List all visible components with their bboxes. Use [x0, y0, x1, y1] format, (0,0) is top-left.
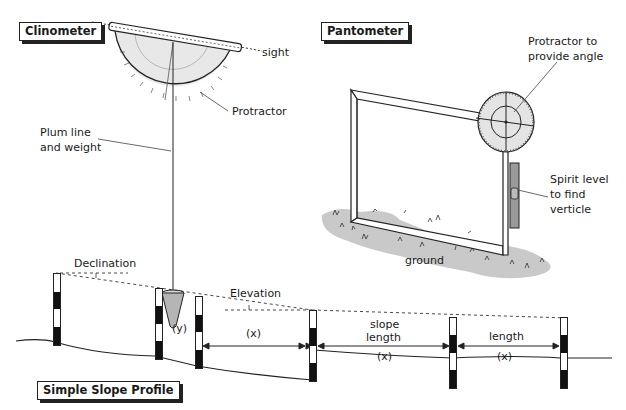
protractor-label: Protractor — [232, 105, 287, 118]
spirit-level-label-2: to find — [550, 188, 585, 201]
plum-line-label-2: and weight — [40, 141, 101, 154]
plum-line-label-1: Plum line — [40, 126, 91, 139]
protractor-angle-label-2: provide angle — [528, 50, 603, 63]
diagram-canvas: Clinometer Pantometer Simple Slope Profi… — [0, 0, 626, 410]
elevation-label: Elevation — [230, 287, 281, 300]
ranging-pole-1 — [53, 273, 61, 346]
slope-profile-title: Simple Slope Profile — [37, 381, 180, 400]
length-label: length — [489, 330, 524, 343]
declination-label: Declination — [74, 257, 136, 270]
clinometer-title: Clinometer — [19, 22, 102, 41]
y-label: (y) — [172, 322, 187, 335]
ranging-pole-6 — [560, 317, 568, 389]
slope-length-label-2: length — [366, 331, 401, 344]
x-label-2: (x) — [377, 350, 392, 363]
pantometer-title: Pantometer — [321, 22, 409, 41]
ranging-pole-3 — [195, 296, 203, 369]
spirit-level-label-1: Spirit level — [550, 173, 609, 186]
sight-label: sight — [262, 46, 289, 59]
ranging-pole-4 — [309, 310, 317, 382]
slope-length-label-1: slope — [370, 318, 399, 331]
ground-label: ground — [405, 254, 444, 267]
spirit-level-label-3: verticle — [550, 203, 591, 216]
pantometer-drawing — [322, 62, 557, 278]
ranging-pole-5 — [449, 317, 457, 389]
ranging-pole-2 — [155, 288, 163, 360]
x-label-1: (x) — [246, 327, 261, 340]
protractor-angle-label-1: Protractor to — [528, 35, 597, 48]
x-label-3: (x) — [497, 350, 512, 363]
